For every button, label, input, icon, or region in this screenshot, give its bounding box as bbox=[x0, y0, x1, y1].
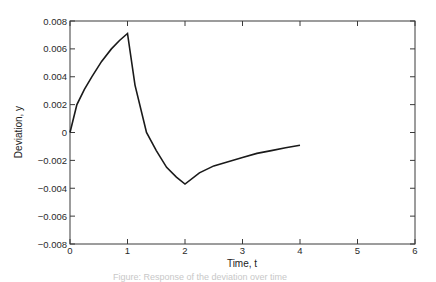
x-tick-label: 1 bbox=[125, 245, 130, 256]
x-axis-ticks: 0123456 bbox=[67, 21, 417, 256]
x-tick-label: 6 bbox=[412, 245, 417, 256]
y-tick-label: −0.002 bbox=[38, 155, 67, 166]
figure-caption: Figure: Response of the deviation over t… bbox=[113, 272, 287, 282]
y-tick-label: −0.004 bbox=[38, 183, 67, 194]
y-axis-title: Deviation, y bbox=[13, 106, 24, 158]
x-tick-label: 5 bbox=[355, 245, 360, 256]
y-axis-ticks: 0.0080.0060.0040.0020−0.002−0.004−0.006−… bbox=[38, 16, 415, 250]
y-tick-label: 0.008 bbox=[43, 16, 67, 27]
plot-frame bbox=[70, 21, 415, 244]
y-tick-label: 0.004 bbox=[43, 71, 67, 82]
x-tick-label: 4 bbox=[297, 245, 302, 256]
y-tick-label: 0.006 bbox=[43, 43, 67, 54]
x-tick-label: 2 bbox=[182, 245, 187, 256]
y-tick-label: −0.008 bbox=[38, 239, 67, 250]
x-tick-label: 0 bbox=[67, 245, 72, 256]
y-tick-label: 0.002 bbox=[43, 99, 67, 110]
y-tick-label: 0 bbox=[62, 127, 67, 138]
y-tick-label: −0.006 bbox=[38, 211, 67, 222]
line-chart: 0123456 0.0080.0060.0040.0020−0.002−0.00… bbox=[0, 0, 436, 282]
x-axis-title: Time, t bbox=[227, 258, 257, 269]
data-series-line bbox=[70, 34, 300, 185]
x-tick-label: 3 bbox=[240, 245, 245, 256]
